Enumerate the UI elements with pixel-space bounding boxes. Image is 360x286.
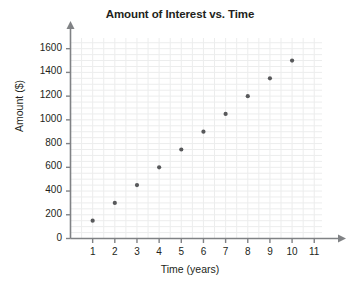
y-tick-label: 1600 <box>14 42 62 53</box>
y-tick-label: 800 <box>14 137 62 148</box>
data-point[interactable] <box>246 94 250 98</box>
y-axis-arrowhead <box>67 21 75 29</box>
data-point[interactable] <box>157 165 161 169</box>
x-axis-arrowhead <box>338 235 346 243</box>
data-point[interactable] <box>224 112 228 116</box>
y-tick-label: 1400 <box>14 65 62 76</box>
data-point[interactable] <box>113 201 117 205</box>
data-point[interactable] <box>201 130 205 134</box>
y-tick-label: 600 <box>14 160 62 171</box>
chart-figure: Amount of Interest vs. Time Amount ($) T… <box>0 0 360 286</box>
y-tick-label: 400 <box>14 184 62 195</box>
data-point[interactable] <box>290 58 294 62</box>
data-point[interactable] <box>91 219 95 223</box>
y-tick-label: 1200 <box>14 89 62 100</box>
x-axis-title: Time (years) <box>60 263 320 275</box>
x-tick-label: 11 <box>300 246 328 257</box>
y-tick-label: 1000 <box>14 113 62 124</box>
data-point[interactable] <box>268 76 272 80</box>
y-tick-label: 0 <box>14 232 62 243</box>
y-tick-label: 200 <box>14 208 62 219</box>
axis-ticks <box>66 49 314 243</box>
data-point[interactable] <box>135 183 139 187</box>
data-point[interactable] <box>179 147 183 151</box>
grid-lines <box>71 38 323 239</box>
